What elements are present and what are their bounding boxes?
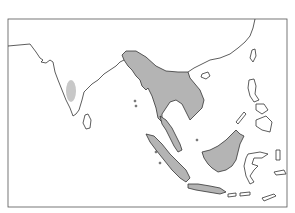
- philippines-visayas: [256, 104, 268, 114]
- small-island: [155, 151, 157, 153]
- coastline-mainland: [8, 44, 124, 116]
- small-island: [196, 139, 198, 141]
- range-sumatra: [146, 134, 190, 182]
- distribution-map: [0, 0, 295, 213]
- hainan: [201, 72, 210, 79]
- coastline-china: [188, 19, 255, 72]
- palawan: [236, 112, 246, 124]
- maluku-2: [274, 170, 286, 175]
- timor: [262, 194, 276, 201]
- sri-lanka: [83, 114, 91, 129]
- taiwan: [250, 49, 256, 62]
- range-borneo: [202, 130, 244, 172]
- maluku-1: [276, 150, 280, 160]
- range-western-ghats: [66, 80, 76, 102]
- philippines-mindanao: [256, 116, 272, 132]
- sulawesi: [244, 152, 268, 184]
- range-indochina: [122, 51, 204, 122]
- nicobar-islands: [135, 105, 137, 107]
- lesser-sunda-2: [240, 192, 250, 196]
- philippines-luzon: [248, 79, 259, 102]
- lesser-sunda-1: [228, 193, 236, 197]
- small-island: [159, 162, 161, 164]
- andaman-islands: [134, 100, 136, 102]
- range-java: [188, 184, 226, 194]
